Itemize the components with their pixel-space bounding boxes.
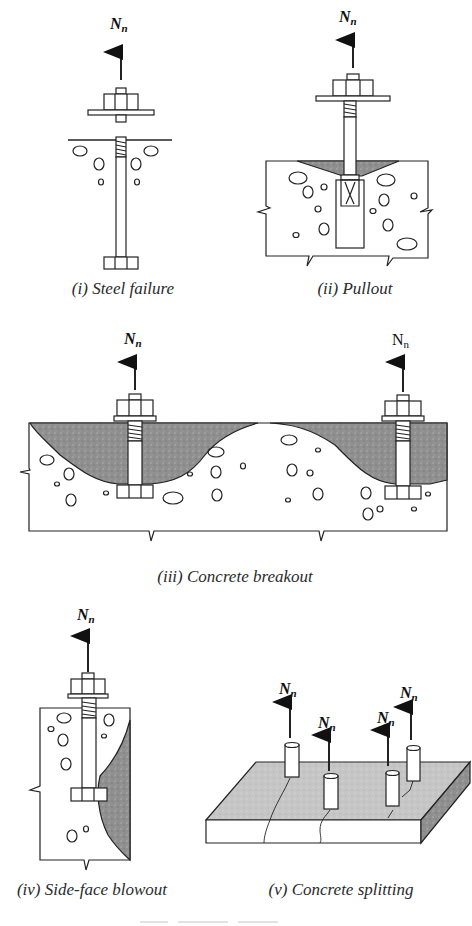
caption-side-face-blowout: (iv) Side-face blowout — [2, 880, 182, 900]
load-label: Nn — [124, 330, 142, 349]
load-label: Nn — [400, 684, 418, 703]
load-label: Nn — [279, 680, 297, 699]
load-label: Nn — [392, 331, 409, 350]
caption-steel-failure: (i) Steel failure — [58, 279, 188, 299]
failure-modes-drawing — [0, 0, 472, 926]
load-label: Nn — [110, 15, 128, 34]
panel-side-face-blowout — [30, 636, 130, 870]
panel-pullout — [258, 40, 432, 266]
load-label: Nn — [318, 714, 336, 733]
panel-steel-failure — [68, 52, 172, 269]
cutoff-figure-caption — [140, 912, 320, 922]
caption-concrete-splitting: (v) Concrete splitting — [246, 880, 436, 900]
panel-concrete-splitting — [206, 702, 470, 843]
load-label: Nn — [339, 8, 357, 27]
load-label: Nn — [377, 709, 395, 728]
caption-concrete-breakout: (iii) Concrete breakout — [130, 567, 340, 587]
caption-pullout: (ii) Pullout — [300, 279, 410, 299]
panel-concrete-breakout — [20, 362, 447, 541]
load-label: Nn — [77, 606, 95, 625]
